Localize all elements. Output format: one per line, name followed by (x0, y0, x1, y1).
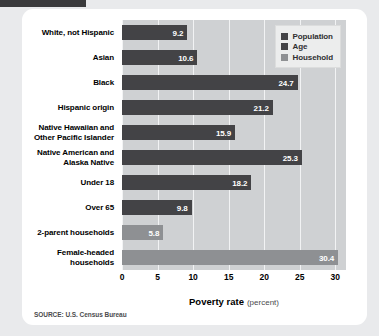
source-note: SOURCE: U.S. Census Bureau (34, 311, 127, 318)
category-label-line: Black (18, 78, 114, 88)
bar-value-label: 30.4 (319, 253, 334, 262)
header-band (0, 0, 86, 7)
legend-label: Age (293, 42, 308, 51)
chart-legend: PopulationAgeHousehold (275, 25, 341, 68)
bar-value-label: 24.7 (278, 78, 293, 87)
category-label: Native Hawaiian andOther Pacific Islande… (18, 123, 114, 142)
x-tick-label: 5 (155, 272, 160, 282)
gridline-20 (264, 20, 265, 270)
category-label: White, not Hispanic (18, 28, 114, 38)
legend-item-age[interactable]: Age (281, 42, 333, 51)
x-axis-title: Poverty rate(percent) (122, 291, 346, 309)
bar[interactable]: 24.7 (122, 75, 298, 90)
bar-value-label: 10.6 (178, 53, 193, 62)
x-tick-label: 10 (188, 272, 197, 282)
category-label: Over 65 (18, 203, 114, 213)
bar-value-label: 9.8 (177, 203, 188, 212)
legend-swatch-icon (281, 54, 288, 61)
category-label-column: White, not HispanicAsianBlackHispanic or… (22, 20, 119, 270)
category-label: Under 18 (18, 178, 114, 188)
category-label-line: Under 18 (18, 178, 114, 188)
category-label-line: Other Pacific Islander (18, 133, 114, 143)
category-label: Female-headedhouseholds (18, 248, 114, 267)
legend-label: Population (293, 32, 333, 41)
bar-value-label: 21.2 (254, 103, 269, 112)
legend-item-population[interactable]: Population (281, 32, 333, 41)
legend-item-household[interactable]: Household (281, 53, 333, 62)
bar[interactable]: 18.2 (122, 175, 251, 190)
bar[interactable]: 10.6 (122, 50, 197, 65)
category-label-line: Asian (18, 53, 114, 63)
x-tick-label: 15 (224, 272, 233, 282)
bar-value-label: 5.8 (148, 228, 159, 237)
figure-card: White, not HispanicAsianBlackHispanic or… (22, 9, 367, 325)
legend-label: Household (293, 53, 333, 62)
x-axis-title-unit: (percent) (247, 298, 279, 307)
category-label-line: Native Hawaiian and (18, 123, 114, 133)
bar[interactable]: 21.2 (122, 100, 273, 115)
poverty-rate-bar-chart: White, not HispanicAsianBlackHispanic or… (22, 9, 367, 325)
category-label-line: White, not Hispanic (18, 28, 114, 38)
x-tick-label: 20 (259, 272, 268, 282)
bar-value-label: 18.2 (232, 178, 247, 187)
plot-area: 9.210.624.721.215.925.318.29.85.830.4 Po… (122, 20, 346, 270)
category-label-line: Native American and (18, 148, 114, 158)
x-tick-label: 30 (331, 272, 340, 282)
bar-value-label: 9.2 (173, 28, 184, 37)
bar[interactable]: 15.9 (122, 125, 235, 140)
category-label: Black (18, 78, 114, 88)
x-tick-label: 25 (295, 272, 304, 282)
category-label-line: Female-headed (18, 248, 114, 258)
category-label-line: Alaska Native (18, 158, 114, 168)
category-label: Native American andAlaska Native (18, 148, 114, 167)
page-background: White, not HispanicAsianBlackHispanic or… (0, 0, 379, 336)
category-label: Asian (18, 53, 114, 63)
category-label-line: Over 65 (18, 203, 114, 213)
gridline-15 (229, 20, 230, 270)
bar[interactable]: 5.8 (122, 225, 163, 240)
bar-value-label: 25.3 (283, 153, 298, 162)
x-axis-ticks: 051015202530 (122, 272, 346, 286)
bar[interactable]: 9.8 (122, 200, 192, 215)
category-label-line: Hispanic origin (18, 103, 114, 113)
legend-swatch-icon (281, 43, 288, 50)
bar-value-label: 15.9 (216, 128, 231, 137)
category-label-line: 2-parent households (18, 228, 114, 238)
x-tick-label: 0 (120, 272, 125, 282)
x-axis-title-main: Poverty rate (189, 296, 244, 307)
category-label: 2-parent households (18, 228, 114, 238)
bar[interactable]: 30.4 (122, 250, 338, 265)
bar[interactable]: 9.2 (122, 25, 187, 40)
legend-swatch-icon (281, 33, 288, 40)
bar[interactable]: 25.3 (122, 150, 302, 165)
category-label-line: households (18, 258, 114, 268)
category-label: Hispanic origin (18, 103, 114, 113)
